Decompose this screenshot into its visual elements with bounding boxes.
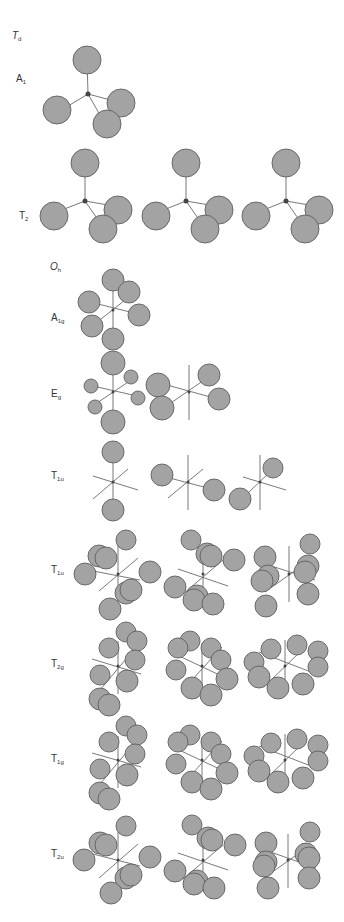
orbital-lobe — [146, 373, 170, 397]
central-atom — [259, 481, 262, 484]
central-atom — [117, 665, 120, 668]
diagram-oh-a1g — [78, 269, 150, 350]
label-subscript: 2g — [57, 664, 64, 670]
orbital-lobe — [99, 732, 119, 752]
orbital-lobe — [116, 670, 138, 692]
orbital-lobe — [211, 650, 231, 670]
orbital-lobe — [84, 379, 98, 393]
orbital-lobe — [183, 589, 205, 611]
orbital-lobe — [73, 849, 95, 871]
orbital-lobe — [168, 638, 188, 658]
orbital-lobe — [191, 215, 219, 243]
central-atom — [287, 859, 290, 862]
diagram-oh-t2u-2 — [164, 815, 246, 899]
orbital-lobe — [198, 364, 220, 386]
orbital-lobe — [40, 202, 68, 230]
orbital-lobe — [257, 877, 279, 899]
orbital-lobe — [255, 595, 277, 617]
orbital-lobe — [139, 561, 161, 583]
label-irrep-eg: Eg — [51, 389, 61, 400]
bond-line — [93, 476, 138, 490]
orbital-lobe — [203, 479, 225, 501]
central-atom — [187, 481, 190, 484]
bond-line — [167, 385, 214, 398]
central-atom — [188, 391, 191, 394]
orbital-lobe — [224, 834, 246, 856]
label-main: E — [51, 388, 58, 399]
orbital-lobe — [93, 110, 121, 138]
orbital-lobe — [90, 759, 110, 779]
orbital-lobe — [201, 829, 223, 851]
diagram-oh-t2u-1 — [73, 816, 161, 904]
label-irrep-t2: T2 — [19, 211, 28, 222]
orbital-lobe — [200, 778, 222, 800]
orbital-lobe — [88, 400, 102, 414]
orbital-lobe — [248, 666, 270, 688]
orbital-lobe — [116, 816, 136, 836]
diagram-oh-t1u-pair-2 — [164, 530, 245, 615]
orbital-lobe — [124, 370, 138, 384]
label-irrep-a1g: A1g — [51, 313, 64, 324]
orbital-lobe — [200, 545, 222, 567]
orbital-lobe — [261, 733, 281, 753]
orbital-lobe — [99, 638, 119, 658]
orbital-lobe — [127, 631, 147, 651]
orbital-lobe — [151, 464, 173, 486]
label-irrep-t2g: T2g — [51, 659, 64, 670]
orbital-lobe — [216, 668, 238, 690]
orbital-lobe — [267, 677, 289, 699]
label-subscript: d — [18, 36, 21, 42]
orbital-lobe — [294, 561, 316, 583]
orbital-lobe — [118, 281, 140, 303]
orbital-lobe — [81, 315, 103, 337]
orbital-lobe — [166, 660, 186, 680]
diagram-oh-t2g-2 — [166, 631, 238, 706]
diagram-td-t2-2 — [142, 149, 233, 243]
diagram-oh-t2u-3 — [253, 822, 320, 899]
label-main: O — [50, 261, 58, 272]
orbital-lobe — [89, 215, 117, 243]
orbital-lobe — [98, 694, 120, 716]
label-irrep-a1: A1 — [16, 74, 26, 85]
central-atom — [117, 573, 120, 576]
label-subscript: h — [58, 267, 61, 273]
orbital-lobe — [287, 635, 307, 655]
orbital-lobe — [102, 441, 124, 463]
central-atom — [284, 665, 287, 668]
orbital-lobe — [251, 570, 273, 592]
central-atom — [112, 391, 115, 394]
orbital-lobe — [116, 530, 136, 550]
orbital-lobe — [253, 855, 275, 877]
diagram-oh-t1u-pair-3 — [251, 534, 320, 617]
label-irrep-t1u-a: T1u — [51, 471, 64, 482]
label-subscript: 1g — [57, 759, 64, 765]
orbital-lobe — [150, 396, 174, 420]
diagram-oh-eg-2 — [146, 364, 230, 420]
orbital-lobe — [300, 534, 320, 554]
orbital-lobe — [202, 593, 224, 615]
orbital-lobe — [100, 882, 122, 904]
orbital-lobe — [308, 751, 328, 771]
orbital-lobe — [203, 877, 225, 899]
orbital-lobe — [73, 46, 101, 74]
label-irrep-t2u: T2u — [51, 849, 64, 860]
diagram-td-t2-3 — [242, 149, 333, 243]
orbital-lobe — [292, 673, 314, 695]
orbital-lobe — [78, 291, 100, 313]
orbital-lobe — [183, 873, 205, 895]
diagram-oh-t1u-3 — [229, 455, 286, 510]
orbital-lobe — [168, 732, 188, 752]
central-atom — [184, 199, 189, 204]
diagram-oh-t1u-1 — [93, 441, 138, 521]
orbital-lobe — [120, 864, 142, 886]
orbital-lobe — [127, 725, 147, 745]
central-atom — [112, 481, 115, 484]
orbital-lobe — [164, 860, 186, 882]
orbital-lobe — [71, 149, 99, 177]
orbital-lobe — [131, 391, 145, 405]
central-atom — [201, 665, 204, 668]
orbital-lobe — [298, 867, 320, 889]
diagram-oh-t1g-3 — [244, 729, 328, 793]
diagram-oh-eg-1 — [84, 351, 145, 434]
diagram-oh-t1g-2 — [166, 725, 238, 800]
